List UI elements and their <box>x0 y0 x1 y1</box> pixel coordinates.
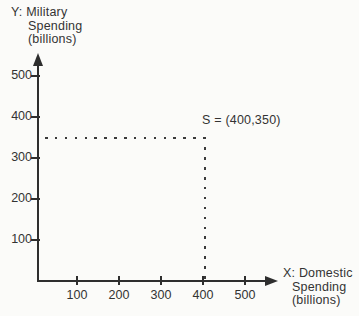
guide-dot <box>134 137 137 140</box>
guide-dot <box>204 177 207 180</box>
y-axis-title-line-1: Y: Military <box>11 6 82 20</box>
y-tick-mark <box>31 116 40 118</box>
y-tick-label: 100 <box>2 232 32 246</box>
y-tick-label: 200 <box>2 191 32 205</box>
guide-dot <box>204 256 207 259</box>
y-axis <box>37 58 39 282</box>
guide-dot <box>114 137 117 140</box>
guide-dot <box>204 147 207 150</box>
x-axis <box>37 280 268 282</box>
x-tick-mark <box>76 276 78 285</box>
guide-dot <box>204 236 207 239</box>
x-axis-arrow-icon <box>265 276 278 286</box>
guide-dot <box>104 137 107 140</box>
guide-dot <box>183 137 186 140</box>
y-tick-label: 300 <box>2 150 32 164</box>
x-tick-label: 200 <box>102 288 136 302</box>
guide-dot <box>204 197 207 200</box>
guide-dot <box>85 137 88 140</box>
guide-dot <box>204 246 207 249</box>
guide-dot <box>45 137 48 140</box>
guide-dot <box>94 137 97 140</box>
guide-dot <box>55 137 58 140</box>
guide-dot <box>204 157 207 160</box>
guide-dot <box>204 207 207 210</box>
y-tick-mark <box>31 157 40 159</box>
guide-dot <box>65 137 68 140</box>
y-tick-mark <box>31 198 40 200</box>
point-s-label: S = (400,350) <box>202 113 281 127</box>
x-tick-label: 100 <box>60 288 94 302</box>
x-tick-label: 400 <box>186 288 220 302</box>
guide-dot <box>154 137 157 140</box>
y-tick-label: 500 <box>2 68 32 82</box>
guide-dot <box>204 227 207 230</box>
guide-dot <box>204 187 207 190</box>
y-axis-title-line-3: (billions) <box>11 33 82 47</box>
guide-dot <box>144 137 147 140</box>
guide-dot <box>204 167 207 170</box>
x-tick-mark <box>244 276 246 285</box>
y-tick-label: 400 <box>2 109 32 123</box>
guide-dot <box>173 137 176 140</box>
x-tick-mark <box>118 276 120 285</box>
guide-dot <box>204 276 207 279</box>
y-axis-title: Y: Military Spending (billions) <box>11 6 82 47</box>
guide-dot <box>124 137 127 140</box>
y-axis-title-line-2: Spending <box>11 20 82 34</box>
guide-dot <box>204 217 207 220</box>
x-axis-title: X: Domestic Spending (billions) <box>283 267 353 308</box>
y-tick-mark <box>31 239 40 241</box>
military-domestic-spending-chart: Y: Military Spending (billions) 10020030… <box>0 0 359 316</box>
guide-dot <box>75 137 78 140</box>
x-axis-title-line-3: (billions) <box>283 294 353 308</box>
x-axis-title-line-1: X: Domestic <box>283 267 353 281</box>
guide-dot <box>193 137 196 140</box>
x-tick-mark <box>160 276 162 285</box>
x-tick-label: 500 <box>228 288 262 302</box>
guide-dot <box>204 266 207 269</box>
guide-dot <box>164 137 167 140</box>
x-axis-title-line-2: Spending <box>283 281 353 295</box>
x-tick-label: 300 <box>144 288 178 302</box>
guide-dot <box>203 137 206 140</box>
y-tick-mark <box>31 75 40 77</box>
